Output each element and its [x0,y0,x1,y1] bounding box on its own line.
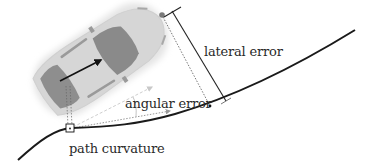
lateral-error-label: lateral error [204,45,283,58]
angular-error-label: angular error [125,97,212,110]
path-curvature-label: path curvature [69,142,164,155]
diagram-svg [0,0,373,168]
car-front-point [159,12,165,18]
right-angle-marker-dot [69,128,71,130]
lateral-error-tick-top [164,7,181,17]
lateral-error-tick-bottom [221,98,231,104]
nose-projection-line [163,17,210,106]
diagram-canvas: lateral error angular error path curvatu… [0,0,373,168]
